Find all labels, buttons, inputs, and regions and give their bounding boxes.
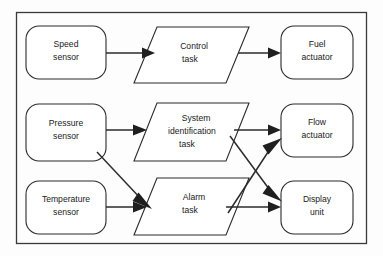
system-identification-task-label-line3: task: [179, 139, 195, 149]
display-unit-label-line1: Display: [303, 194, 332, 204]
flow-actuator-label-line2: actuator: [301, 130, 332, 140]
flow-actuator-label-line1: Flow: [308, 117, 327, 127]
fuel-actuator-label-line2: actuator: [301, 52, 332, 62]
system-identification-task-label-line2: identification: [168, 126, 216, 136]
node-speed-sensor[interactable]: Speed sensor: [26, 26, 106, 79]
diagram-canvas: Speed sensor Control task Fuel actuator: [0, 0, 383, 256]
alarm-task-label-line1: Alarm: [183, 192, 205, 202]
node-display-unit[interactable]: Display unit: [281, 181, 353, 234]
temperature-sensor-label-line2: sensor: [53, 207, 79, 217]
temperature-sensor-label-line1: Temperature: [42, 194, 90, 204]
display-unit-label-line2: unit: [310, 207, 324, 217]
pressure-sensor-label-line1: Pressure: [49, 118, 84, 128]
diagram-svg: Speed sensor Control task Fuel actuator: [0, 0, 383, 256]
control-task-label-line2: task: [182, 54, 198, 64]
control-task-label-line1: Control: [180, 41, 208, 51]
node-flow-actuator[interactable]: Flow actuator: [281, 104, 353, 157]
speed-sensor-label-line2: sensor: [53, 52, 79, 62]
fuel-actuator-label-line1: Fuel: [309, 39, 326, 49]
node-temperature-sensor[interactable]: Temperature sensor: [26, 181, 106, 234]
pressure-sensor-label-line2: sensor: [53, 131, 79, 141]
alarm-task-label-line2: task: [182, 205, 198, 215]
node-fuel-actuator[interactable]: Fuel actuator: [281, 26, 353, 79]
node-pressure-sensor[interactable]: Pressure sensor: [26, 104, 106, 161]
speed-sensor-label-line1: Speed: [54, 39, 79, 49]
system-identification-task-label-line1: System: [182, 113, 211, 123]
